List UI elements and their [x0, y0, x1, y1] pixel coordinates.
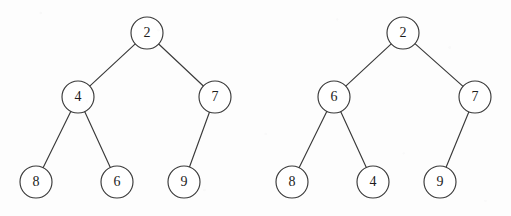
edges-layer: [43, 44, 469, 168]
tree-edge: [43, 111, 71, 167]
tree-node[interactable]: 8: [276, 166, 308, 198]
tree-node[interactable]: 9: [424, 166, 456, 198]
tree-node[interactable]: 4: [62, 81, 94, 113]
tree-node[interactable]: 8: [20, 166, 52, 198]
node-label: 4: [75, 89, 82, 104]
node-label: 2: [144, 25, 151, 40]
node-label: 8: [289, 174, 296, 189]
tree-edge: [446, 112, 469, 167]
tree-node[interactable]: 9: [168, 166, 200, 198]
node-label: 8: [33, 174, 40, 189]
node-label: 6: [331, 89, 338, 104]
node-label: 2: [400, 25, 407, 40]
tree-edge: [189, 112, 209, 167]
tree-edge: [85, 112, 111, 168]
tree-edge: [415, 44, 463, 87]
node-label: 4: [370, 174, 377, 189]
nodes-layer: 247869267849: [20, 17, 491, 198]
node-label: 7: [472, 89, 479, 104]
tree-edge: [299, 111, 327, 167]
tree-node[interactable]: 6: [101, 166, 133, 198]
node-label: 9: [181, 174, 188, 189]
tree-edge: [341, 112, 367, 168]
tree-edge: [159, 44, 204, 86]
tree-node[interactable]: 7: [199, 81, 231, 113]
node-label: 6: [114, 174, 121, 189]
tree-node[interactable]: 2: [131, 17, 163, 49]
tree-edge: [90, 44, 136, 86]
node-label: 7: [212, 89, 219, 104]
binary-tree-figure: 247869267849: [0, 0, 511, 216]
tree-node[interactable]: 6: [318, 81, 350, 113]
tree-edge: [346, 44, 392, 86]
node-label: 9: [437, 174, 444, 189]
tree-diagram-canvas: 247869267849: [0, 0, 511, 216]
tree-node[interactable]: 7: [459, 81, 491, 113]
tree-node[interactable]: 2: [387, 17, 419, 49]
tree-node[interactable]: 4: [357, 166, 389, 198]
